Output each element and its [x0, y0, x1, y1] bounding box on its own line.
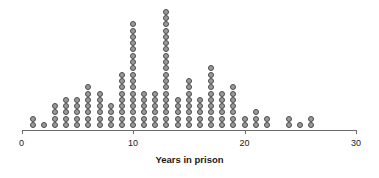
- data-dot: [208, 91, 214, 97]
- data-dot: [163, 116, 169, 122]
- data-dot: [63, 116, 69, 122]
- data-dot: [119, 109, 125, 115]
- data-dot: [152, 103, 158, 109]
- data-dot: [85, 103, 91, 109]
- data-dot: [163, 15, 169, 21]
- data-dot: [253, 122, 259, 128]
- data-dot: [219, 97, 225, 103]
- data-dot: [130, 59, 136, 65]
- data-dot: [52, 122, 58, 128]
- data-dot: [163, 40, 169, 46]
- data-dot: [163, 103, 169, 109]
- data-dot: [219, 122, 225, 128]
- data-dot: [119, 116, 125, 122]
- data-dot: [208, 97, 214, 103]
- data-dot: [130, 65, 136, 71]
- data-dot: [197, 103, 203, 109]
- data-dot: [163, 109, 169, 115]
- data-dot: [141, 91, 147, 97]
- data-dot: [242, 122, 248, 128]
- data-dot: [163, 84, 169, 90]
- x-tick-mark: [356, 130, 357, 134]
- plot-area: [0, 0, 379, 140]
- data-dot: [208, 116, 214, 122]
- data-dot: [130, 84, 136, 90]
- data-dot: [186, 122, 192, 128]
- data-dot: [219, 103, 225, 109]
- data-dot: [41, 122, 47, 128]
- data-dot: [119, 103, 125, 109]
- data-dot: [163, 65, 169, 71]
- data-dot: [208, 109, 214, 115]
- data-dot: [175, 122, 181, 128]
- data-dot: [186, 78, 192, 84]
- data-dot: [208, 78, 214, 84]
- data-dot: [85, 97, 91, 103]
- data-dot: [141, 97, 147, 103]
- data-dot: [85, 122, 91, 128]
- data-dot: [74, 109, 80, 115]
- data-dot: [186, 109, 192, 115]
- data-dot: [208, 72, 214, 78]
- data-dot: [208, 122, 214, 128]
- data-dot: [163, 59, 169, 65]
- data-dot: [97, 103, 103, 109]
- data-dot: [219, 109, 225, 115]
- data-dot: [308, 116, 314, 122]
- data-dot: [163, 91, 169, 97]
- data-dot: [264, 116, 270, 122]
- x-tick-label: 20: [230, 138, 260, 149]
- data-dot: [63, 109, 69, 115]
- x-tick-mark: [22, 130, 23, 134]
- data-dot: [175, 109, 181, 115]
- data-dot: [63, 122, 69, 128]
- data-dot: [74, 116, 80, 122]
- data-dot: [186, 91, 192, 97]
- data-dot: [286, 122, 292, 128]
- data-dot: [130, 116, 136, 122]
- data-dot: [163, 34, 169, 40]
- data-dot: [108, 122, 114, 128]
- data-dot: [163, 9, 169, 15]
- data-dot: [208, 103, 214, 109]
- data-dot: [119, 72, 125, 78]
- data-dot: [97, 122, 103, 128]
- data-dot: [119, 122, 125, 128]
- data-dot: [152, 122, 158, 128]
- x-axis-line: [22, 130, 357, 131]
- data-dot: [230, 97, 236, 103]
- data-dot: [141, 109, 147, 115]
- data-dot: [108, 103, 114, 109]
- data-dot: [286, 116, 292, 122]
- data-dot: [152, 91, 158, 97]
- data-dot: [119, 91, 125, 97]
- data-dot: [74, 97, 80, 103]
- data-dot: [163, 53, 169, 59]
- data-dot: [141, 103, 147, 109]
- data-dot: [141, 122, 147, 128]
- data-dot: [130, 28, 136, 34]
- data-dot: [130, 91, 136, 97]
- data-dot: [52, 103, 58, 109]
- data-dot: [74, 122, 80, 128]
- data-dot: [52, 109, 58, 115]
- data-dot: [219, 116, 225, 122]
- data-dot: [130, 40, 136, 46]
- data-dot: [230, 116, 236, 122]
- data-dot: [97, 109, 103, 115]
- data-dot: [119, 78, 125, 84]
- data-dot: [152, 116, 158, 122]
- data-dot: [163, 28, 169, 34]
- x-axis-title: Years in prison: [0, 154, 379, 165]
- data-dot: [175, 97, 181, 103]
- x-tick-mark: [245, 130, 246, 134]
- data-dot: [208, 84, 214, 90]
- data-dot: [163, 46, 169, 52]
- data-dot: [130, 103, 136, 109]
- data-dot: [230, 84, 236, 90]
- data-dot: [85, 84, 91, 90]
- data-dot: [130, 72, 136, 78]
- data-dot: [230, 91, 236, 97]
- data-dot: [30, 122, 36, 128]
- data-dot: [152, 109, 158, 115]
